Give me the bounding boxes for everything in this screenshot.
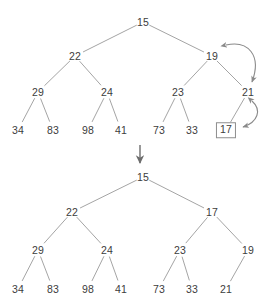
tree-node-73: 73	[153, 284, 165, 295]
tree-node-23: 23	[172, 87, 184, 98]
tree-node-34: 34	[12, 284, 24, 295]
tree-node-29: 29	[32, 245, 44, 256]
tree-node-15: 15	[137, 17, 149, 28]
tree-node-21: 21	[242, 87, 254, 98]
tree-node-17: 17	[216, 122, 236, 138]
tree-transformation-figure: 1522192924232134839841733317152217292423…	[0, 0, 269, 304]
swap-arrow-19-21	[226, 44, 255, 82]
tree-node-41: 41	[115, 125, 127, 136]
tree-node-83: 83	[47, 125, 59, 136]
tree-node-19: 19	[242, 245, 254, 256]
tree-node-23: 23	[174, 245, 186, 256]
tree-node-24: 24	[101, 245, 113, 256]
tree-node-29: 29	[32, 87, 44, 98]
tree-node-22: 22	[66, 207, 78, 218]
tree-node-98: 98	[82, 284, 94, 295]
tree-node-98: 98	[82, 125, 94, 136]
tree-node-17: 17	[206, 207, 218, 218]
tree-node-24: 24	[101, 87, 113, 98]
tree-node-73: 73	[153, 125, 165, 136]
tree-node-34: 34	[12, 125, 24, 136]
tree-node-83: 83	[47, 284, 59, 295]
tree-node-33: 33	[186, 125, 198, 136]
tree-node-21: 21	[220, 284, 232, 295]
tree-node-33: 33	[186, 284, 198, 295]
annotation-arrows	[0, 0, 269, 304]
tree-node-19: 19	[206, 51, 218, 62]
tree-node-22: 22	[69, 51, 81, 62]
tree-node-41: 41	[115, 284, 127, 295]
tree-node-15: 15	[137, 172, 149, 183]
swap-arrow-21-17	[243, 101, 258, 127]
